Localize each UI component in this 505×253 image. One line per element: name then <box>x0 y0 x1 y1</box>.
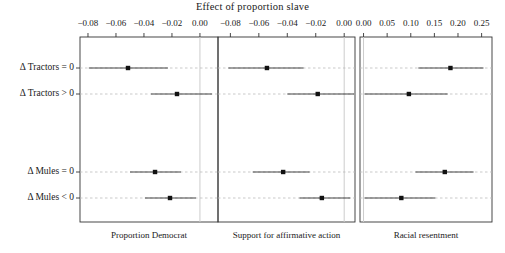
data-point <box>168 196 172 200</box>
data-point <box>316 92 320 96</box>
x-axis-tick-label: 0.25 <box>466 18 498 28</box>
y-axis-row-label: Δ Mules = 0 <box>0 166 74 176</box>
data-point <box>265 66 269 70</box>
data-point <box>320 196 324 200</box>
x-axis-tick-label: −0.06 <box>243 18 275 28</box>
data-point <box>126 66 130 70</box>
y-axis-row-label: Δ Tractors > 0 <box>0 88 74 98</box>
y-axis-row-label: Δ Mules < 0 <box>0 192 74 202</box>
data-point <box>175 92 179 96</box>
y-axis-row-label: Δ Tractors = 0 <box>0 62 74 72</box>
chart-canvas <box>0 0 505 253</box>
data-point <box>407 92 411 96</box>
data-point <box>443 170 447 174</box>
figure: Effect of proportion slave Δ Tractors = … <box>0 0 505 253</box>
data-point <box>281 170 285 174</box>
x-axis-tick-label: −0.08 <box>214 18 246 28</box>
data-point <box>448 66 452 70</box>
data-point <box>153 170 157 174</box>
x-axis-tick-label: 0.00 <box>184 18 216 28</box>
x-axis-tick-label: −0.02 <box>300 18 332 28</box>
panel-label: Racial resentment <box>340 230 505 240</box>
data-point <box>399 196 403 200</box>
x-axis-tick-label: −0.04 <box>271 18 303 28</box>
